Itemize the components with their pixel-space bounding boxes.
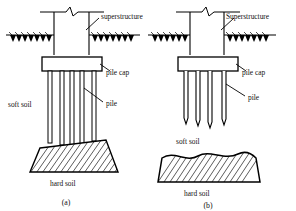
label-superstructure-b: Superstructure	[226, 12, 270, 21]
leader-superstructure-a	[86, 18, 99, 30]
pile-cap-shape-a	[42, 57, 102, 71]
label-hard-soil-b: hard soil	[184, 189, 210, 198]
label-pile-cap-a: pile cap	[106, 68, 129, 77]
label-hard-soil-a: hard soil	[50, 179, 76, 188]
label-superstructure-a: superstructure	[101, 12, 144, 21]
label-pile-b: pile	[248, 93, 260, 102]
hard-soil-layer-b	[154, 146, 266, 188]
piles-group-a	[48, 71, 96, 147]
piles-group-b	[184, 71, 226, 128]
leader-pile-b	[226, 84, 245, 96]
superstructure-column-a	[40, 7, 104, 55]
ground-surface-a	[6, 32, 140, 42]
break-symbol-a	[66, 7, 78, 16]
label-soft-soil-a: soft soil	[8, 100, 32, 109]
figure-canvas: superstructure pile cap pile soft soil h…	[0, 0, 296, 211]
label-soft-soil-b: soft soil	[176, 137, 200, 146]
caption-a: (a)	[62, 198, 71, 207]
label-pile-a: pile	[106, 99, 118, 108]
break-symbol-b	[202, 7, 214, 16]
pile-cap-shape-b	[178, 57, 238, 71]
ground-surface-b	[148, 32, 276, 42]
panel-b: Superstructure pile cap pile soft soil h…	[148, 0, 296, 211]
panel-a-drawing: superstructure pile cap pile soft soil h…	[0, 0, 148, 211]
panel-a: superstructure pile cap pile soft soil h…	[0, 0, 148, 211]
hard-soil-layer-a	[28, 136, 140, 176]
panel-b-drawing: Superstructure pile cap pile soft soil h…	[148, 0, 296, 211]
caption-b: (b)	[203, 201, 212, 210]
label-pile-cap-b: pile cap	[242, 68, 265, 77]
